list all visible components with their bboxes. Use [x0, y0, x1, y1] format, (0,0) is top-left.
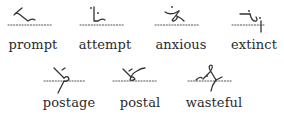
word-label: wasteful: [186, 96, 243, 110]
word-label: postal: [120, 96, 161, 110]
shorthand-outline-wasteful-icon: [186, 60, 236, 96]
shorthand-outline-anxious-icon: [153, 2, 201, 28]
shorthand-outline-postal-icon: [111, 60, 159, 86]
word-label: prompt: [9, 38, 58, 52]
shorthand-outline-postage-icon: [42, 60, 90, 96]
shorthand-outline-extinct-icon: [230, 2, 278, 36]
shorthand-outline-prompt-icon: [6, 2, 54, 28]
word-label: attempt: [79, 38, 131, 52]
shorthand-outline-attempt-icon: [78, 2, 126, 28]
word-label: postage: [43, 96, 96, 110]
word-label: anxious: [155, 38, 206, 52]
word-label: extinct: [231, 38, 277, 52]
